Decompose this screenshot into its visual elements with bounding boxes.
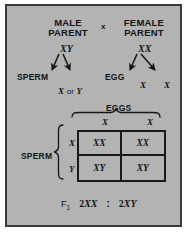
punnett-square: XX XX XY XY [77, 130, 166, 182]
sperm-label-gametes: SPERM [17, 73, 48, 82]
f1-term-2: 2XY [119, 198, 137, 209]
punnett-column-header-1: X [102, 118, 108, 127]
egg-gamete-1: X [140, 81, 146, 90]
f1-result-row: F1 2XX : 2XY [61, 198, 137, 211]
punnett-cell-r1c1: XX [79, 132, 122, 156]
f1-term-2-genotype: XY [124, 198, 137, 209]
egg-gamete-2: X [164, 81, 170, 90]
female-parent-genotype: XX [138, 44, 152, 55]
punnett-row-header-2: Y [69, 165, 75, 174]
cross-symbol: x [101, 23, 106, 31]
egg-arrow-left [130, 54, 137, 70]
sperm-brace [55, 125, 64, 179]
male-parent-genotype: XY [60, 44, 73, 55]
female-parent-label: FEMALE PARENT [113, 18, 175, 38]
f1-term-1: 2XX [79, 198, 97, 209]
male-parent-line2: PARENT [39, 28, 97, 38]
genetics-diagram-figure: MALE PARENT x FEMALE PARENT XY XX SPERM … [0, 0, 188, 232]
egg-arrow-right [141, 54, 155, 70]
male-parent-label: MALE PARENT [39, 18, 97, 38]
sperm-arrow-right [63, 54, 70, 70]
f1-term-1-genotype: XX [84, 198, 97, 209]
sperm-arrow-left [52, 54, 59, 70]
punnett-column-group-label: EGGS [106, 104, 131, 113]
punnett-cell-r1c2: XX [122, 132, 165, 156]
diagram-line-art [7, 6, 184, 229]
diagram-panel: MALE PARENT x FEMALE PARENT XY XX SPERM … [5, 4, 182, 227]
punnett-cell-r2c2: XY [122, 156, 165, 180]
punnett-row-header-1: X [69, 139, 75, 148]
egg-label-gametes: EGG [105, 73, 125, 82]
punnett-column-header-2: X [147, 118, 153, 127]
sperm-gamete-y: Y [77, 86, 83, 96]
f1-ratio-separator: : [106, 198, 109, 209]
f1-generation-label: F1 [61, 199, 70, 211]
sperm-gamete-types: X or Y [58, 81, 82, 98]
f1-subscript: 1 [67, 204, 71, 211]
punnett-cell-r2c1: XY [79, 156, 122, 180]
punnett-row-group-label: SPERM [21, 152, 52, 161]
female-parent-line2: PARENT [113, 28, 175, 38]
